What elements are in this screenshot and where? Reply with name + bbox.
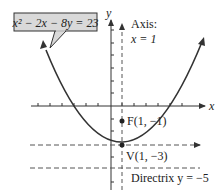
parabola-curve — [46, 42, 202, 142]
axis-of-symmetry: Axis: x = 1 — [122, 17, 157, 190]
focus-point — [120, 119, 125, 124]
vertex-point — [120, 143, 125, 148]
vertex-label: V(1, −3) — [126, 149, 167, 163]
equation-text: x² − 2x − 8y = 23 — [12, 16, 99, 30]
axis-label-line1: Axis: — [131, 17, 157, 31]
right-arm-arrow-icon — [198, 37, 205, 46]
y-axis: y — [105, 6, 114, 190]
axis-label-line2: x = 1 — [130, 32, 156, 46]
y-axis-label: y — [105, 6, 112, 20]
directrix-label: Directrix y = −5 — [131, 171, 209, 185]
focus-label: F(1, −1) — [127, 114, 166, 128]
parabola-diagram: x y Axis: x = 1 F(1, −1) V( — [0, 0, 222, 193]
x-axis-label: x — [208, 99, 215, 113]
equation-callout: x² − 2x − 8y = 23 — [12, 13, 99, 48]
left-arm-arrow-icon — [40, 40, 47, 49]
x-axis: x — [31, 99, 215, 113]
